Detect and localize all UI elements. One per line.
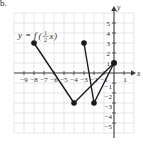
x-axis-arrow — [131, 70, 136, 76]
data-point — [81, 40, 87, 46]
function-label-equals: = — [25, 30, 31, 40]
y-tick-label: −1 — [105, 83, 113, 91]
function-label-f: f — [34, 30, 38, 40]
function-label: y = f ( 1 2 x ) — [17, 30, 57, 43]
y-axis-arrow — [111, 6, 117, 11]
x-tick-label: −9 — [20, 76, 28, 84]
x-tick-label: 1 — [123, 76, 127, 84]
y-tick-label: −4 — [105, 113, 113, 121]
graph-figure: b. — [0, 0, 143, 145]
x-tick-label: −7 — [40, 76, 48, 84]
function-label-paren-open: ( — [39, 31, 43, 41]
data-point — [31, 40, 37, 46]
coordinate-plane: x y — [0, 0, 143, 145]
x-tick-label: −8 — [30, 76, 38, 84]
data-point — [111, 60, 117, 66]
function-label-variable: x — [49, 31, 54, 41]
function-label-y: y — [17, 30, 22, 40]
fraction-numerator: 1 — [44, 30, 47, 36]
fraction-denominator: 2 — [44, 37, 47, 43]
x-tick-label: −4 — [70, 76, 78, 84]
x-axis-label: x — [136, 69, 141, 78]
y-tick-label: −2 — [105, 93, 113, 101]
y-axis-label: y — [116, 3, 121, 12]
y-tick-label: 4 — [107, 30, 111, 38]
x-tick-label: −3 — [80, 76, 88, 84]
y-tick-label: 2 — [107, 50, 111, 58]
y-tick-label: 3 — [107, 40, 111, 48]
function-label-paren-close: ) — [53, 31, 57, 41]
y-tick-label: 5 — [107, 20, 111, 28]
y-tick-label: −3 — [105, 103, 113, 111]
x-tick-label: −5 — [60, 76, 68, 84]
data-point — [71, 100, 77, 106]
y-tick-label: −5 — [105, 123, 113, 131]
data-point — [91, 100, 97, 106]
